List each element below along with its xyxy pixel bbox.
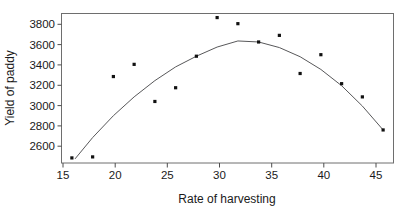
y-tick-label: 2600	[29, 140, 55, 152]
data-point	[319, 53, 322, 56]
x-tick-label: 40	[317, 169, 330, 181]
scatter-plot-svg: 3800 3600 3400 3200 3000 2800 2600 15 20…	[0, 0, 413, 224]
x-tick-label: 20	[109, 169, 122, 181]
data-point	[153, 100, 156, 103]
data-point	[195, 55, 198, 58]
x-tick-label: 25	[161, 169, 174, 181]
data-point	[174, 86, 177, 89]
data-point	[382, 128, 385, 131]
data-point	[257, 40, 260, 43]
data-point	[278, 34, 281, 37]
y-tick-label: 3600	[29, 39, 55, 51]
x-tick-label: 35	[265, 169, 278, 181]
y-tick-label: 2800	[29, 120, 55, 132]
data-point	[361, 95, 364, 98]
data-point	[299, 72, 302, 75]
chart-figure: 3800 3600 3400 3200 3000 2800 2600 15 20…	[0, 0, 413, 224]
y-tick-label: 3000	[29, 100, 55, 112]
x-tick-label: 45	[370, 169, 383, 181]
x-axis-title: Rate of harvesting	[178, 192, 275, 206]
y-axis-title: Yield of paddy	[3, 50, 17, 126]
data-point	[91, 155, 94, 158]
data-point	[70, 156, 73, 159]
y-tick-label: 3400	[29, 59, 55, 71]
data-point	[340, 82, 343, 85]
data-point	[216, 16, 219, 19]
y-tick-label: 3200	[29, 79, 55, 91]
data-point	[112, 75, 115, 78]
y-tick-label: 3800	[29, 18, 55, 30]
data-point	[236, 22, 239, 25]
data-point	[133, 63, 136, 66]
x-tick-label: 15	[57, 169, 70, 181]
x-tick-label: 30	[213, 169, 226, 181]
